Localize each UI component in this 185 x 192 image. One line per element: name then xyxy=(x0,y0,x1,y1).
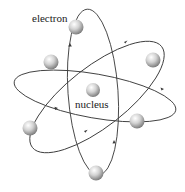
electron-lower-left xyxy=(23,121,38,136)
electron-right xyxy=(146,53,161,68)
electron-left xyxy=(44,55,59,70)
nucleus-sphere xyxy=(86,83,100,97)
nucleus-label: nucleus xyxy=(75,98,109,110)
arrow-icon xyxy=(124,41,128,44)
electron-top xyxy=(69,20,84,35)
electron-lower-right xyxy=(130,114,145,129)
orbit-diagonal xyxy=(14,23,180,171)
atom-diagram: nucleus electron xyxy=(0,0,185,192)
arrow-icon xyxy=(68,43,72,47)
electron-label: electron xyxy=(32,12,68,24)
arrow-icon xyxy=(84,130,88,133)
arrow-icon xyxy=(161,87,165,90)
electron-bottom xyxy=(89,166,104,181)
arrow-icon xyxy=(113,140,116,144)
